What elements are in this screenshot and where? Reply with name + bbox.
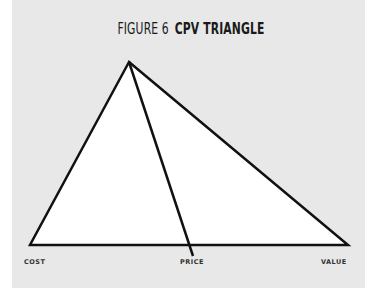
price-label: PRICE xyxy=(180,258,204,266)
triangle-shape xyxy=(30,62,348,245)
value-label: VALUE xyxy=(321,258,347,266)
cost-label: COST xyxy=(24,258,45,266)
cpv-triangle-diagram xyxy=(0,0,382,288)
